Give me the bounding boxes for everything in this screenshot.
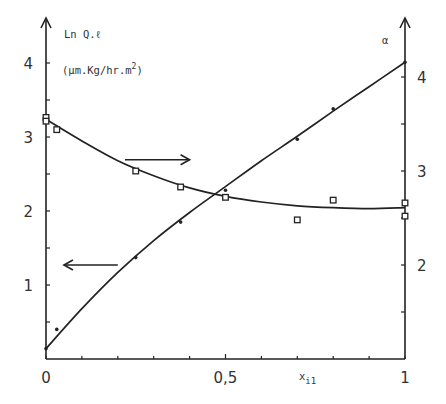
x-tick-label: 0,5 [214,369,238,387]
axis-labels: Ln Q.ℓ (μm.Kg/hr.m2) α xi1 [62,28,389,386]
left-y-tick-label: 1 [23,277,33,295]
lnq-data-point [44,347,48,351]
alpha-data-point [43,118,49,124]
left-axis-units: (μm.Kg/hr.m2) [62,62,143,76]
tick-labels: 00,511234234 [23,55,426,387]
alpha-data-point [54,127,60,133]
alpha-data-point [330,197,336,203]
axis-arrows [64,155,190,270]
right-y-tick-label: 4 [417,69,427,87]
lnq-data-point [179,220,183,224]
alpha-data-point [295,217,301,223]
lnq-data-point [331,107,335,111]
left-y-tick-label: 3 [23,129,33,147]
alpha-data-point [402,213,408,219]
alpha-data-point [223,195,229,201]
left-axis-title: Ln Q.ℓ [64,28,101,40]
fit-curves [46,62,405,348]
lnq-data-point [224,188,228,192]
chart-canvas: Ln Q.ℓ (μm.Kg/hr.m2) α xi1 00,511234234 [0,0,446,404]
lnq-data-point [134,256,138,260]
alpha-data-point [178,184,184,190]
alpha-data-point [133,168,139,174]
data-markers [43,60,408,350]
x-axis-title: xi1 [299,370,316,386]
arrow-right-icon [125,155,190,165]
arrow-left-icon [64,260,118,270]
left-y-tick-label: 2 [23,203,33,221]
lnq-data-point [296,137,300,141]
right-y-tick-label: 3 [417,163,427,181]
left-y-tick-label: 4 [23,55,33,73]
lnq-data-point [55,328,59,332]
lnq-fit-curve [46,62,405,348]
alpha-data-point [402,200,408,206]
right-y-tick-label: 2 [417,257,427,275]
x-tick-label: 1 [400,369,410,387]
axis-ticks [46,63,405,359]
lnq-data-point [403,60,407,64]
right-axis-title: α [382,34,389,46]
x-tick-label: 0 [41,369,51,387]
